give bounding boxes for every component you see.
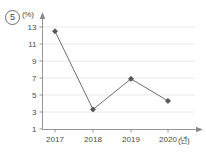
data-series-line bbox=[55, 31, 168, 109]
x-tick-label: 2020 bbox=[159, 135, 177, 144]
y-tick-label: 11 bbox=[28, 40, 37, 49]
y-tick-labels-group: 131197531 bbox=[28, 23, 37, 134]
x-axis-arrow-icon bbox=[196, 127, 203, 133]
y-tick-label: 13 bbox=[28, 23, 37, 32]
y-tick-label: 5 bbox=[32, 91, 37, 100]
gridlines-group bbox=[43, 27, 196, 112]
x-tick-label: 2018 bbox=[84, 135, 102, 144]
data-point-marker bbox=[165, 98, 170, 103]
y-tick-label: 3 bbox=[32, 108, 37, 117]
x-tick-label: 2017 bbox=[46, 135, 64, 144]
line-chart: 131197531 2017201820192020 bbox=[0, 0, 206, 152]
chart-page: 5 (%) (년) 131197531 2017201820192020 bbox=[0, 0, 206, 152]
x-tick-label: 2019 bbox=[122, 135, 140, 144]
y-tick-label: 1 bbox=[32, 125, 37, 134]
x-tick-labels-group: 2017201820192020 bbox=[46, 135, 177, 144]
y-tick-label: 9 bbox=[32, 57, 37, 66]
y-axis-arrow-icon bbox=[40, 12, 46, 19]
data-series-markers-group bbox=[52, 29, 170, 112]
data-point-marker bbox=[52, 29, 57, 34]
y-tick-label: 7 bbox=[32, 74, 37, 83]
